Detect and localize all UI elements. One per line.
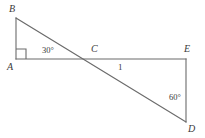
right-angle-marker-icon xyxy=(16,49,26,59)
angle-label-60-at-D: 60° xyxy=(169,93,181,102)
vertex-label-B: B xyxy=(9,4,15,14)
vertex-label-A: A xyxy=(7,62,13,72)
segment-BD xyxy=(16,18,186,122)
geometry-figure: B A C E D 30° 60° 1 xyxy=(0,0,205,138)
vertex-label-D: D xyxy=(188,124,195,134)
angle-label-30-at-C: 30° xyxy=(42,46,54,55)
vertex-label-E: E xyxy=(184,44,190,54)
vertex-label-C: C xyxy=(91,44,98,54)
geometry-canvas xyxy=(0,0,205,138)
length-label-CE: 1 xyxy=(118,63,123,72)
